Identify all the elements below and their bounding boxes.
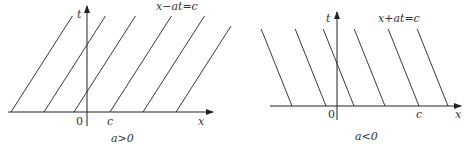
right-x-axis-label: x (455, 108, 462, 121)
left-panel: t x 0 c x−at=c a>0 (8, 0, 231, 145)
left-x-axis-label: x (198, 115, 205, 128)
right-panel: t x 0 c x+at=c a<0 (261, 12, 462, 143)
characteristic-line (74, 16, 135, 112)
left-characteristic-lines (11, 16, 231, 112)
right-equation-label: x+at=c (378, 12, 420, 25)
right-characteristic-lines (261, 29, 448, 106)
characteristic-line (261, 29, 292, 106)
left-origin-label: 0 (76, 115, 83, 128)
left-equation-label: x−at=c (156, 0, 198, 13)
characteristic-line (176, 26, 231, 112)
characteristics-diagram: t x 0 c x−at=c a>0 t x 0 c x+at=c a<0 (0, 0, 467, 152)
left-c-label: c (107, 115, 113, 128)
right-origin-label: 0 (328, 108, 335, 121)
characteristic-line (295, 29, 326, 106)
characteristic-line (323, 29, 354, 106)
characteristic-line (354, 29, 385, 106)
left-t-axis-label: t (77, 8, 82, 21)
characteristic-line (143, 16, 204, 112)
right-c-label: c (416, 108, 422, 121)
right-t-axis-label: t (326, 12, 331, 25)
left-caption: a>0 (111, 132, 134, 145)
characteristic-line (44, 16, 105, 112)
characteristic-line (388, 29, 419, 106)
characteristic-line (110, 16, 171, 112)
characteristic-line (417, 29, 448, 106)
characteristic-line (11, 16, 72, 112)
right-caption: a<0 (355, 130, 378, 143)
